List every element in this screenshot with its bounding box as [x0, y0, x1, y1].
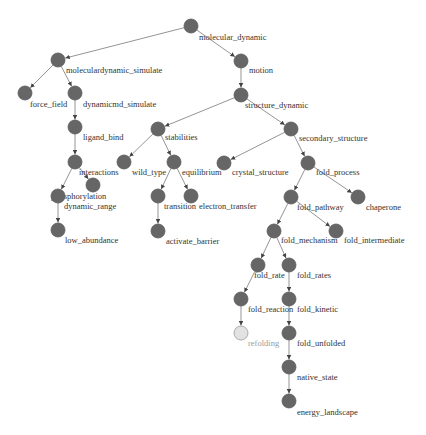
node-circle[interactable]: [184, 19, 198, 33]
node-circle[interactable]: [282, 326, 296, 340]
node-chaperone[interactable]: chaperone: [351, 190, 401, 212]
node-label: fold_kinetic: [297, 304, 338, 314]
node-label: secondary_structure: [299, 133, 368, 143]
node-refolding[interactable]: refolding: [234, 326, 280, 348]
node-circle[interactable]: [117, 155, 131, 169]
node-equilibrium[interactable]: equilibrium: [167, 155, 222, 177]
node-circle[interactable]: [151, 122, 165, 136]
node-circle[interactable]: [151, 224, 165, 238]
node-fold_intermediate[interactable]: fold_intermediate: [329, 224, 405, 245]
node-circle[interactable]: [282, 360, 296, 374]
node-label: force_field: [30, 99, 68, 109]
node-label: moleculardynamic_simulate: [66, 65, 163, 75]
node-circle[interactable]: [51, 53, 65, 67]
node-label: fold_mechanism: [281, 235, 338, 245]
node-dynamicmd_simulate[interactable]: dynamicmd_simulate: [68, 86, 156, 109]
node-label: dynamicmd_simulate: [83, 99, 156, 109]
edge-moleculardynamic_simulate-to-force_field: [30, 65, 53, 88]
tree-graph: molecular_dynamicmoleculardynamic_simula…: [0, 0, 426, 435]
edge-interactions-to-dynamic_range: [61, 168, 72, 189]
node-structure_dynamic[interactable]: structure_dynamic: [234, 88, 308, 110]
node-circle[interactable]: [329, 224, 343, 238]
node-circle[interactable]: [282, 394, 296, 408]
node-label: fold_unfolded: [297, 338, 346, 348]
node-motion[interactable]: motion: [234, 54, 274, 75]
node-circle[interactable]: [267, 224, 281, 238]
nodes-layer: molecular_dynamicmoleculardynamic_simula…: [18, 19, 405, 417]
node-label: motion: [249, 65, 274, 75]
node-label: fold_pathway: [297, 202, 344, 212]
node-circle[interactable]: [284, 190, 298, 204]
edge-secondary_structure-to-crystal_structure: [231, 132, 285, 159]
node-activate_barrier[interactable]: activate_barrier: [151, 224, 219, 246]
node-label: crystal_structure: [232, 167, 289, 177]
node-label: interactions: [79, 167, 119, 177]
node-circle[interactable]: [86, 178, 100, 192]
node-label: chaperone: [366, 202, 401, 212]
node-circle[interactable]: [282, 292, 296, 306]
node-label: native_state: [297, 372, 338, 382]
node-circle[interactable]: [282, 258, 296, 272]
edge-fold_mechanism-to-fold_rate: [261, 237, 271, 258]
node-fold_unfolded[interactable]: fold_unfolded: [282, 326, 346, 348]
node-circle[interactable]: [217, 156, 231, 170]
node-circle[interactable]: [18, 86, 32, 100]
node-label: activate_barrier: [166, 236, 219, 246]
node-energy_landscape[interactable]: energy_landscape: [282, 394, 358, 417]
node-fold_mechanism[interactable]: fold_mechanism: [267, 224, 338, 245]
node-crystal_structure[interactable]: crystal_structure: [217, 156, 289, 177]
node-label: fold_rate: [254, 270, 285, 280]
node-moleculardynamic_simulate[interactable]: moleculardynamic_simulate: [51, 53, 163, 75]
edge-molecular_dynamic-to-moleculardynamic_simulate: [65, 28, 184, 58]
edge-structure_dynamic-to-stabilities: [165, 98, 235, 127]
node-circle[interactable]: [284, 122, 298, 136]
node-label: ligand_bind: [83, 132, 124, 142]
node-circle[interactable]: [167, 155, 181, 169]
node-interactions[interactable]: interactions: [68, 155, 119, 177]
node-label: energy_landscape: [297, 407, 358, 417]
node-circle[interactable]: [301, 156, 315, 170]
edge-fold_pathway-to-fold_mechanism: [277, 203, 288, 224]
node-wild_type[interactable]: wild_type: [117, 155, 166, 177]
node-circle[interactable]: [51, 223, 65, 237]
node-circle[interactable]: [68, 120, 82, 134]
edge-fold_process-to-fold_pathway: [294, 169, 305, 190]
node-circle[interactable]: [234, 54, 248, 68]
node-label: structure_dynamic: [245, 100, 308, 110]
node-stabilities[interactable]: stabilities: [151, 122, 198, 142]
node-force_field[interactable]: force_field: [18, 86, 68, 109]
node-label: low_abundance: [65, 235, 119, 245]
node-fold_process[interactable]: fold_process: [301, 156, 359, 177]
node-circle[interactable]: [151, 189, 165, 203]
node-label: equilibrium: [182, 167, 222, 177]
node-circle[interactable]: [184, 189, 198, 203]
node-label: wild_type: [132, 167, 166, 177]
node-circle[interactable]: [51, 189, 65, 203]
node-circle[interactable]: [68, 86, 82, 100]
node-label: molecular_dynamic: [199, 32, 267, 42]
node-label: fold_rates: [297, 270, 331, 280]
node-label: fold_intermediate: [344, 235, 405, 245]
node-circle[interactable]: [351, 190, 365, 204]
node-ligand_bind[interactable]: ligand_bind: [68, 120, 124, 142]
node-fold_rate[interactable]: fold_rate: [251, 258, 285, 280]
node-circle[interactable]: [234, 326, 248, 340]
node-low_abundance[interactable]: low_abundance: [51, 223, 119, 245]
node-label: stabilities: [165, 132, 198, 142]
node-native_state[interactable]: native_state: [282, 360, 338, 382]
node-fold_pathway[interactable]: fold_pathway: [284, 190, 344, 212]
node-label: refolding: [248, 338, 280, 348]
node-label: dynamic_range: [64, 201, 117, 211]
edge-stabilities-to-wild_type: [129, 134, 153, 157]
node-molecular_dynamic[interactable]: molecular_dynamic: [184, 19, 267, 42]
node-label: fold_process: [316, 167, 359, 177]
node-label: electron_transfer: [199, 201, 257, 211]
node-circle[interactable]: [234, 292, 248, 306]
